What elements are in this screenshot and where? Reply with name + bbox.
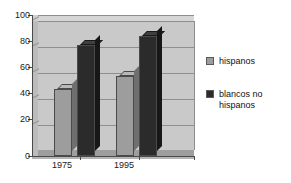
legend-label: hispanos bbox=[219, 56, 255, 67]
legend: hispanos blancos no hispanos bbox=[206, 56, 290, 133]
bar-1975-blancos-no-hispanos[interactable] bbox=[77, 40, 95, 156]
x-axis-line bbox=[32, 156, 194, 157]
chart-root: 100 80 60 40 20 0 1975 1995 hispanos bbox=[0, 0, 291, 183]
y-tick-label: 20 bbox=[0, 115, 30, 124]
y-tick-label: 100 bbox=[0, 11, 30, 20]
legend-label: blancos no hispanos bbox=[219, 89, 263, 111]
x-tick-label-1995: 1995 bbox=[104, 160, 144, 170]
y-tick-label: 40 bbox=[0, 89, 30, 98]
bar-1995-blancos-no-hispanos[interactable] bbox=[139, 31, 157, 156]
y-axis-line bbox=[32, 15, 33, 156]
x-tick-label-1975: 1975 bbox=[42, 160, 82, 170]
legend-swatch-icon bbox=[206, 57, 214, 65]
bar-1995-hispanos[interactable] bbox=[116, 71, 134, 156]
y-tick-label: 60 bbox=[0, 63, 30, 72]
legend-item-hispanos[interactable]: hispanos bbox=[206, 56, 290, 67]
bars-layer bbox=[38, 21, 194, 156]
legend-label-line2: hispanos bbox=[219, 100, 255, 110]
legend-item-blancos-no-hispanos[interactable]: blancos no hispanos bbox=[206, 89, 290, 111]
legend-label-line1: blancos no bbox=[219, 89, 263, 99]
y-tick-label: 80 bbox=[0, 37, 30, 46]
bar-1975-hispanos[interactable] bbox=[54, 84, 72, 156]
y-tick-label: 0 bbox=[0, 152, 30, 161]
legend-swatch-icon bbox=[206, 90, 214, 98]
